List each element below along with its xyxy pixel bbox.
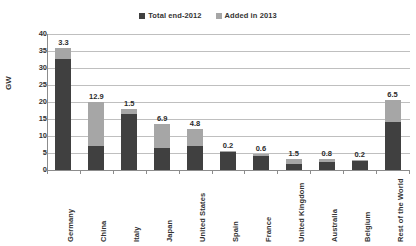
x-tick-mark — [113, 170, 114, 174]
bar-group[interactable]: 12.9 — [88, 102, 104, 170]
bar-group[interactable]: 0.8 — [319, 159, 335, 170]
bar-segment-added-in-2013[interactable] — [253, 154, 269, 156]
chart-container: Total end-2012 Added in 2013 GW 40353025… — [0, 0, 416, 246]
bar-group[interactable]: 6.9 — [154, 124, 170, 170]
x-tick-mark — [310, 170, 311, 174]
legend-label-added-in-2013: Added in 2013 — [225, 11, 277, 20]
bar-segment-added-in-2013[interactable] — [286, 159, 302, 164]
x-tick-mark — [244, 170, 245, 174]
bar-group[interactable]: 1.5 — [121, 109, 137, 170]
bar-group[interactable]: 4.8 — [187, 129, 203, 170]
bar-group[interactable]: 0.6 — [253, 154, 269, 170]
bar-segment-total-end-2012[interactable] — [220, 152, 236, 170]
bars-layer: 3.312.91.56.94.80.20.61.50.80.26.5 — [47, 34, 409, 170]
x-axis-label: Italy — [132, 226, 141, 242]
bar-value-label: 0.2 — [340, 150, 380, 159]
x-tick-mark — [376, 170, 377, 174]
bar-value-label: 3.3 — [43, 38, 83, 47]
legend-item-total-end-2012: Total end-2012 — [139, 11, 201, 20]
bar-group[interactable]: 0.2 — [352, 160, 368, 170]
bar-value-label: 1.5 — [109, 99, 149, 108]
bar-segment-total-end-2012[interactable] — [55, 59, 71, 170]
chart-legend: Total end-2012 Added in 2013 — [0, 11, 416, 20]
bar-segment-added-in-2013[interactable] — [319, 159, 335, 162]
bar-value-label: 6.5 — [373, 90, 413, 99]
x-tick-mark — [409, 170, 410, 174]
bar-segment-total-end-2012[interactable] — [187, 146, 203, 170]
x-tick-mark — [343, 170, 344, 174]
bar-segment-added-in-2013[interactable] — [88, 102, 104, 146]
bar-group[interactable]: 6.5 — [385, 100, 401, 170]
x-tick-mark — [277, 170, 278, 174]
legend-swatch-added-in-2013 — [216, 13, 222, 19]
x-axis-label: France — [264, 217, 273, 242]
bar-segment-added-in-2013[interactable] — [121, 109, 137, 114]
bar-group[interactable]: 0.2 — [220, 151, 236, 170]
bar-segment-total-end-2012[interactable] — [88, 146, 104, 170]
bar-group[interactable]: 3.3 — [55, 48, 71, 170]
x-axis-label: Japan — [165, 220, 174, 242]
x-tick-mark — [212, 170, 213, 174]
y-axis-ticks: 4035302520151050 — [0, 0, 47, 246]
bar-segment-total-end-2012[interactable] — [352, 161, 368, 170]
x-tick-mark — [80, 170, 81, 174]
bar-segment-added-in-2013[interactable] — [385, 100, 401, 122]
x-axis-label: United States — [198, 193, 207, 242]
x-axis-label: United Kingdom — [297, 183, 306, 242]
x-axis-label: Belgium — [363, 212, 372, 242]
bar-segment-total-end-2012[interactable] — [253, 156, 269, 170]
bar-value-label: 4.8 — [175, 119, 215, 128]
x-axis-label: China — [99, 221, 108, 242]
bar-segment-total-end-2012[interactable] — [385, 122, 401, 170]
bar-segment-total-end-2012[interactable] — [319, 162, 335, 170]
bar-segment-added-in-2013[interactable] — [352, 160, 368, 161]
bar-group[interactable]: 1.5 — [286, 159, 302, 170]
x-axis-label: Australia — [330, 209, 339, 242]
x-tick-mark — [47, 170, 48, 174]
bar-segment-added-in-2013[interactable] — [187, 129, 203, 145]
bar-segment-added-in-2013[interactable] — [55, 48, 71, 59]
x-axis-label: Spain — [231, 221, 240, 242]
bar-segment-total-end-2012[interactable] — [154, 148, 170, 170]
bar-segment-total-end-2012[interactable] — [121, 114, 137, 170]
bar-segment-added-in-2013[interactable] — [154, 124, 170, 147]
x-tick-mark — [179, 170, 180, 174]
x-axis-label: Germany — [66, 209, 75, 242]
x-tick-mark — [146, 170, 147, 174]
bar-segment-added-in-2013[interactable] — [220, 151, 236, 152]
legend-swatch-total-end-2012 — [139, 13, 145, 19]
x-axis-labels: GermanyChinaItalyJapanUnited StatesSpain… — [47, 176, 409, 246]
x-axis-label: Rest of the World — [396, 178, 405, 242]
legend-item-added-in-2013: Added in 2013 — [216, 11, 277, 20]
legend-label-total-end-2012: Total end-2012 — [148, 11, 201, 20]
